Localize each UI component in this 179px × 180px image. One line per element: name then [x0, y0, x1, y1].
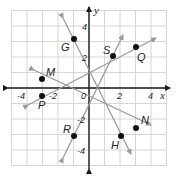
label-M: M: [46, 66, 56, 78]
point-N: [133, 125, 139, 131]
x-tick-label: -2: [49, 91, 57, 101]
y-tick-label: -4: [77, 146, 85, 156]
origin-label: 0: [81, 91, 86, 101]
x-tick-label: -4: [17, 91, 25, 101]
point-Q: [133, 44, 139, 50]
label-R: R: [63, 123, 71, 135]
label-G: G: [61, 41, 70, 53]
y-tick-label: 2: [81, 53, 87, 63]
y-tick-label: -2: [77, 115, 85, 125]
coordinate-plane: -4 -2 0 2 4 x 4 2 -2 -4 y M P G R S Q H …: [0, 0, 179, 180]
y-tick-label: 4: [82, 22, 87, 32]
point-G: [71, 36, 77, 42]
x-tick-label: 4: [148, 91, 153, 101]
label-N: N: [141, 114, 149, 126]
point-S: [110, 53, 116, 59]
x-tick-label: 2: [116, 91, 122, 101]
label-H: H: [111, 139, 119, 151]
label-Q: Q: [137, 51, 146, 63]
x-axis-label: x: [159, 89, 165, 101]
label-P: P: [38, 99, 46, 111]
point-M: [39, 76, 45, 82]
label-S: S: [103, 44, 111, 56]
point-R: [71, 133, 77, 139]
y-axis-label: y: [93, 4, 99, 16]
